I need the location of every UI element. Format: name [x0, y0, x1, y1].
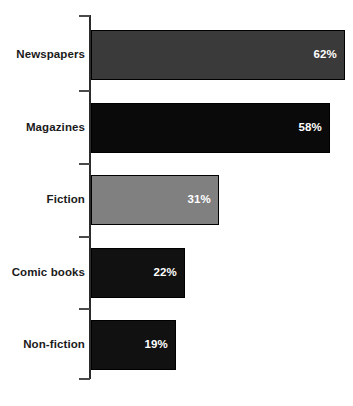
bar: 62%: [91, 30, 345, 80]
bar: 19%: [91, 320, 176, 370]
bar: 22%: [91, 248, 185, 298]
bar-row: Non-fiction19%: [0, 320, 353, 370]
bar-category-label: Non-fiction: [23, 339, 85, 351]
bar-category-label: Fiction: [47, 194, 85, 206]
bar: 58%: [91, 103, 330, 153]
axis-tick: [79, 90, 90, 92]
bar-value-label: 58%: [298, 122, 322, 134]
axis-tick: [79, 236, 90, 238]
bar: 31%: [91, 175, 219, 225]
bar-value-label: 19%: [144, 339, 168, 351]
axis-tick: [79, 308, 90, 310]
bar-row: Comic books22%: [0, 248, 353, 298]
axis-tick: [79, 163, 90, 165]
bar-category-label: Magazines: [26, 122, 85, 134]
bar-category-label: Newspapers: [16, 49, 85, 61]
bar-row: Fiction31%: [0, 175, 353, 225]
axis-tick: [79, 378, 90, 380]
bar-value-label: 22%: [153, 267, 177, 279]
bar-row: Newspapers62%: [0, 30, 353, 80]
bar-value-label: 31%: [187, 194, 211, 206]
bar-category-label: Comic books: [12, 267, 85, 279]
axis-tick: [79, 15, 90, 17]
horizontal-bar-chart: Newspapers62%Magazines58%Fiction31%Comic…: [0, 0, 353, 406]
bar-value-label: 62%: [313, 49, 337, 61]
bar-row: Magazines58%: [0, 103, 353, 153]
